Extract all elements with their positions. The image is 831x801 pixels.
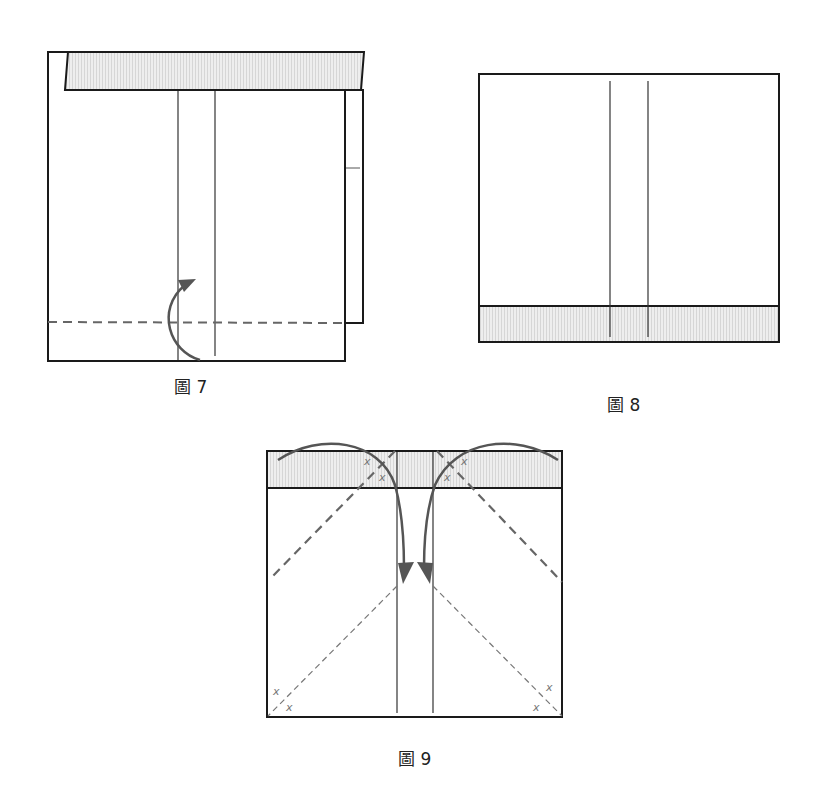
shaded-bottom-strip — [479, 306, 779, 342]
paper-square — [48, 52, 345, 361]
caption-fig9: 圖 9 — [398, 749, 431, 769]
svg-text:x: x — [272, 685, 280, 698]
svg-text:x: x — [532, 701, 540, 714]
diagram-canvas: 圖 7 圖 8 x x x x x x x x — [0, 0, 831, 801]
svg-text:x: x — [378, 471, 386, 484]
figure-8 — [479, 74, 779, 342]
back-layer-edge — [345, 90, 363, 323]
svg-text:x: x — [545, 681, 553, 694]
paper-square — [267, 451, 562, 717]
svg-text:x: x — [363, 455, 371, 468]
figure-7 — [48, 52, 364, 361]
figure-9: x x x x x x x x — [267, 444, 562, 717]
shaded-flap — [65, 52, 364, 90]
svg-text:x: x — [460, 455, 468, 468]
caption-fig7: 圖 7 — [174, 377, 207, 397]
shaded-top-band — [267, 451, 562, 488]
paper-rect — [479, 74, 779, 342]
svg-text:x: x — [443, 471, 451, 484]
caption-fig8: 圖 8 — [607, 395, 640, 415]
svg-text:x: x — [285, 701, 293, 714]
